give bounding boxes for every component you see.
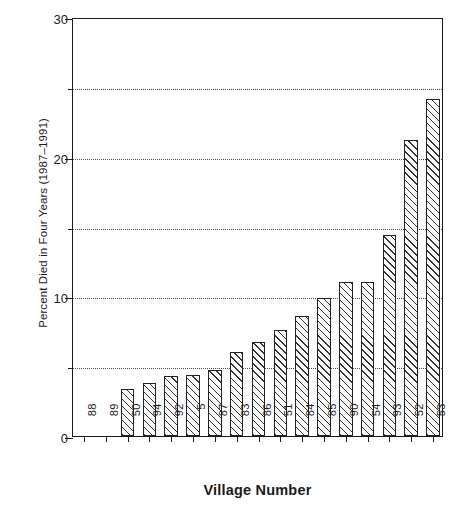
x-tick-labels-group: 888950949258783865184859054935253	[72, 437, 443, 481]
bar-chart-figure: Percent Died in Four Years (1987–1991) 0…	[0, 0, 471, 510]
plot-area: 0102030	[72, 18, 443, 437]
x-tick-label: 92	[174, 403, 185, 443]
x-tick-label: 89	[109, 403, 120, 443]
x-tick-label: 5	[196, 403, 207, 443]
y-tick-mark	[68, 229, 73, 230]
x-tick-label: 51	[283, 403, 294, 443]
x-tick-label: 84	[305, 403, 316, 443]
x-tick-label: 88	[87, 403, 98, 443]
y-tick-label: 0	[61, 432, 68, 445]
x-tick-label: 85	[327, 403, 338, 443]
x-tick-label: 83	[240, 403, 251, 443]
y-tick-mark	[68, 368, 73, 369]
x-tick-label: 50	[131, 403, 142, 443]
x-tick-label: 87	[218, 403, 229, 443]
y-tick-label: 30	[54, 13, 68, 26]
x-tick-label: 90	[349, 403, 360, 443]
bars-group	[73, 19, 442, 436]
y-tick-mark	[68, 89, 73, 90]
bar	[426, 99, 440, 436]
x-tick-label: 52	[414, 403, 425, 443]
bar	[404, 140, 418, 436]
y-tick-label: 10	[54, 292, 68, 305]
y-axis-title: Percent Died in Four Years (1987–1991)	[30, 3, 56, 443]
x-tick-label: 86	[262, 403, 273, 443]
x-tick-label: 54	[371, 403, 382, 443]
x-tick-label: 53	[436, 403, 447, 443]
x-tick-label: 94	[152, 403, 163, 443]
y-tick-label: 20	[54, 152, 68, 165]
x-tick-label: 93	[392, 403, 403, 443]
plot-inner: 0102030	[73, 19, 442, 436]
x-axis-title: Village Number	[72, 482, 443, 498]
